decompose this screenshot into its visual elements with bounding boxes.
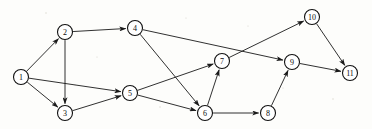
graph-edge-9-to-11 — [300, 64, 341, 72]
graph-edge-7-to-10 — [229, 21, 303, 57]
graph-node-2[interactable]: 2 — [58, 25, 73, 40]
graph-edge-10-to-11 — [317, 24, 345, 66]
node-label-1: 1 — [19, 73, 23, 82]
graph-node-9[interactable]: 9 — [285, 55, 300, 70]
graph-canvas: 1234567891011 — [0, 0, 372, 129]
graph-node-10[interactable]: 10 — [305, 10, 320, 25]
graph-edge-6-to-7 — [208, 70, 220, 105]
node-label-11: 11 — [346, 69, 354, 78]
graph-node-5[interactable]: 5 — [123, 86, 138, 101]
graph-node-3[interactable]: 3 — [58, 106, 73, 121]
graph-edge-1-to-2 — [27, 39, 59, 72]
node-label-4: 4 — [133, 24, 137, 33]
node-label-8: 8 — [266, 109, 270, 118]
node-label-9: 9 — [290, 58, 294, 67]
node-label-5: 5 — [128, 89, 132, 98]
graph-node-11[interactable]: 11 — [343, 66, 358, 81]
graph-node-7[interactable]: 7 — [215, 54, 230, 69]
graph-edge-2-to-4 — [73, 29, 126, 32]
node-label-6: 6 — [203, 109, 207, 118]
graph-node-8[interactable]: 8 — [261, 106, 276, 121]
node-label-2: 2 — [63, 28, 67, 37]
graph-edge-4-to-9 — [143, 30, 283, 60]
node-label-10: 10 — [308, 13, 316, 22]
graph-figure: 1234567891011 — [0, 0, 372, 129]
graph-node-4[interactable]: 4 — [128, 21, 143, 36]
graph-node-6[interactable]: 6 — [198, 106, 213, 121]
graph-edge-1-to-3 — [27, 82, 58, 107]
graph-edge-5-to-7 — [138, 64, 214, 90]
node-label-7: 7 — [220, 57, 224, 66]
graph-edge-4-to-6 — [140, 34, 199, 106]
node-label-3: 3 — [63, 109, 67, 118]
graph-edge-5-to-6 — [138, 95, 196, 111]
graph-edge-8-to-9 — [271, 70, 288, 105]
graph-edge-1-to-5 — [29, 78, 121, 91]
graph-node-1[interactable]: 1 — [14, 70, 29, 85]
graph-edge-3-to-5 — [73, 96, 121, 111]
